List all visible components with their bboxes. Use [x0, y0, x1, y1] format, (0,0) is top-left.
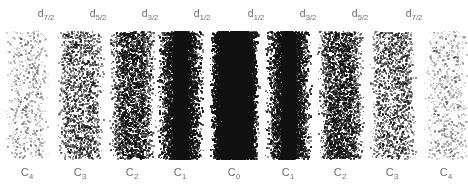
orbital-label-subscript: 7/2: [44, 13, 55, 22]
orbital-label-subscript: 5/2: [358, 13, 369, 22]
orbital-label-subscript: 3/2: [306, 13, 317, 22]
orbital-label-5: d3/2: [300, 7, 317, 19]
column-label-base: C: [440, 166, 448, 178]
stipple-density-canvas: [0, 0, 468, 192]
column-label-base: C: [386, 166, 394, 178]
column-label-subscript: 0: [236, 172, 240, 181]
column-label-subscript: 2: [134, 172, 138, 181]
column-label-5: C1: [282, 166, 294, 178]
column-label-base: C: [334, 166, 342, 178]
column-label-subscript: 3: [394, 172, 398, 181]
column-label-base: C: [74, 166, 82, 178]
column-label-6: C2: [334, 166, 346, 178]
column-label-base: C: [228, 166, 236, 178]
column-label-8: C4: [440, 166, 452, 178]
column-label-1: C3: [74, 166, 86, 178]
column-label-4: C0: [228, 166, 240, 178]
column-label-subscript: 3: [82, 172, 86, 181]
column-label-base: C: [282, 166, 290, 178]
orbital-label-3: d1/2: [194, 7, 211, 19]
orbital-label-2: d3/2: [142, 7, 159, 19]
orbital-label-subscript: 7/2: [412, 13, 423, 22]
orbital-label-0: d7/2: [38, 7, 55, 19]
orbital-label-subscript: 1/2: [200, 13, 211, 22]
orbital-label-7: d7/2: [406, 7, 423, 19]
column-label-0: C4: [21, 166, 33, 178]
column-label-7: C3: [386, 166, 398, 178]
column-label-base: C: [126, 166, 134, 178]
column-label-3: C1: [174, 166, 186, 178]
column-label-subscript: 2: [342, 172, 346, 181]
orbital-label-4: d1/2: [248, 7, 265, 19]
column-label-base: C: [174, 166, 182, 178]
stipple-density-figure: d7/2d5/2d3/2d1/2d1/2d3/2d5/2d7/2 C4C3C2C…: [0, 0, 468, 192]
column-label-base: C: [21, 166, 29, 178]
orbital-label-subscript: 3/2: [148, 13, 159, 22]
column-label-subscript: 4: [448, 172, 452, 181]
orbital-label-subscript: 5/2: [96, 13, 107, 22]
orbital-label-subscript: 1/2: [254, 13, 265, 22]
orbital-label-6: d5/2: [352, 7, 369, 19]
column-label-2: C2: [126, 166, 138, 178]
column-label-subscript: 1: [290, 172, 294, 181]
column-label-subscript: 4: [29, 172, 33, 181]
orbital-label-1: d5/2: [90, 7, 107, 19]
column-label-subscript: 1: [182, 172, 186, 181]
